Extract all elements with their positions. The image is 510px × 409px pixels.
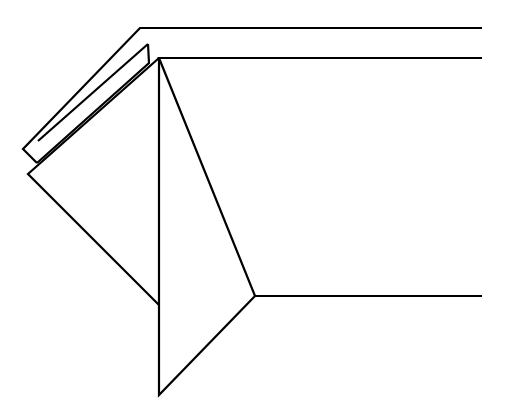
outer-band-line [23, 28, 482, 163]
front-triangle-outline [159, 58, 255, 395]
fold-diagram [0, 0, 510, 409]
left-flap-outline [28, 58, 159, 305]
inner-flap-line-a [38, 44, 148, 141]
top-panel-outline [159, 58, 482, 296]
inner-flap-line-b [37, 44, 149, 163]
diagram-canvas [0, 0, 510, 409]
